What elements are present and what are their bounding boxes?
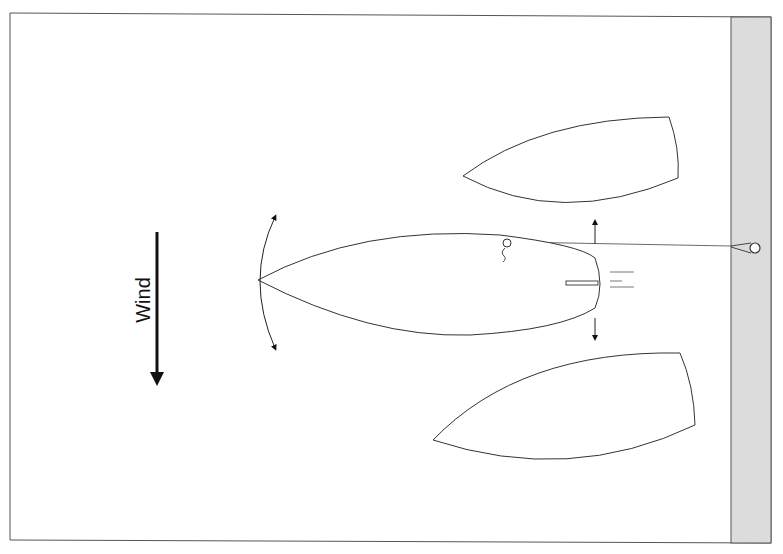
wind-label: Wind bbox=[132, 277, 154, 323]
tiller bbox=[566, 281, 598, 285]
dock bbox=[731, 17, 771, 543]
sailing-diagram: Wind bbox=[0, 0, 783, 554]
